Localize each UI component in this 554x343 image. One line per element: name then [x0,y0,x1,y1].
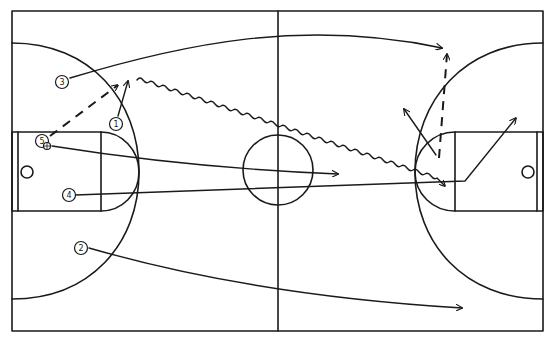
player-2[interactable]: 2 [75,242,88,255]
players: 1 2 3 4 5 [36,76,123,255]
cut-arrow-player-3 [70,35,442,78]
svg-text:1: 1 [113,120,118,129]
pass-arrow-5-to-1 [50,85,118,136]
right-three-point-arc [415,43,543,299]
cut-arrow-player-5 [52,146,338,174]
player-3[interactable]: 3 [56,76,69,89]
option-arrow-elbow [404,109,436,155]
left-three-point-arc [12,43,139,299]
right-key [455,132,543,211]
dribble-arrow-player-1 [137,78,445,186]
svg-text:2: 2 [78,244,83,253]
svg-text:3: 3 [59,78,64,87]
right-hoop-icon [522,166,534,178]
right-half [415,43,543,299]
right-free-throw-arc [415,132,455,211]
left-key [12,132,101,211]
cut-arrow-player-2 [89,248,462,308]
play-actions [50,35,516,308]
svg-text:4: 4 [66,191,71,200]
ball-icon [44,143,51,150]
pass-arrow-elbow-to-wing [439,54,447,158]
left-free-throw-arc [101,132,139,211]
basketball-court-diagram: 1 2 3 4 5 [0,0,554,343]
player-4[interactable]: 4 [63,189,76,202]
player-1[interactable]: 1 [110,118,123,131]
left-hoop-icon [21,166,33,178]
left-half [12,43,139,299]
